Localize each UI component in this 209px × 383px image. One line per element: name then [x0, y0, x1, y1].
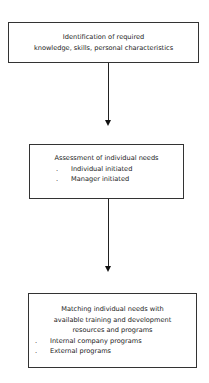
bullet-icon: .: [35, 336, 37, 347]
node-matching-line-1: Matching individual needs with: [29, 304, 196, 315]
node-matching-line-3: resources and programs: [29, 325, 196, 336]
node-matching-bullet-2: . External programs: [29, 346, 196, 357]
node-matching-line-2: available training and development: [29, 315, 196, 326]
bullet-icon: .: [56, 174, 58, 185]
node-assessment-title: Assessment of individual needs: [30, 153, 183, 164]
arrowhead-1-icon: [105, 120, 111, 126]
bullet-text: External programs: [50, 347, 111, 355]
node-assessment-bullet-2: . Manager initiated: [30, 174, 183, 185]
bullet-icon: .: [35, 346, 37, 357]
node-matching: Matching individual needs with available…: [28, 293, 197, 368]
node-identification: Identification of required knowledge, sk…: [8, 22, 199, 63]
bullet-text: Manager initiated: [71, 175, 129, 183]
bullet-text: Internal company programs: [50, 337, 142, 345]
node-assessment-bullet-1: . Individual initiated: [30, 164, 183, 175]
bullet-icon: .: [56, 164, 58, 175]
node-identification-line-2: knowledge, skills, personal characterist…: [9, 43, 198, 54]
node-matching-bullet-1: . Internal company programs: [29, 336, 196, 347]
arrowhead-2-icon: [105, 266, 111, 272]
connector-1: [108, 63, 109, 123]
bullet-text: Individual initiated: [71, 165, 132, 173]
connector-2: [108, 199, 109, 269]
node-assessment: Assessment of individual needs . Individ…: [29, 144, 184, 199]
node-identification-line-1: Identification of required: [9, 32, 198, 43]
